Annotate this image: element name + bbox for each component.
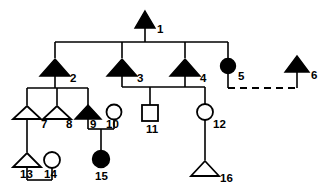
- individual-label-1: 1: [157, 23, 164, 35]
- individual-6[interactable]: 6: [285, 56, 317, 81]
- individual-label-4: 4: [200, 72, 207, 84]
- individual-10[interactable]: 10: [106, 105, 122, 131]
- triangle-symbol-filled[interactable]: [75, 105, 101, 119]
- individual-label-11: 11: [146, 123, 159, 135]
- individual-4[interactable]: 4: [170, 59, 207, 84]
- triangle-symbol-filled[interactable]: [285, 56, 309, 72]
- individual-14[interactable]: 14: [44, 152, 60, 180]
- triangle-symbol-open[interactable]: [191, 161, 219, 176]
- triangle-symbol-filled[interactable]: [170, 59, 200, 76]
- individual-2[interactable]: 2: [40, 59, 76, 84]
- connector-lines: [27, 28, 297, 180]
- individual-15[interactable]: 15: [93, 151, 110, 183]
- individual-13[interactable]: 13: [13, 153, 41, 180]
- individual-label-13: 13: [20, 168, 33, 180]
- individual-label-5: 5: [238, 70, 245, 82]
- individual-label-2: 2: [70, 72, 76, 84]
- individual-label-8: 8: [66, 118, 73, 130]
- triangle-symbol-open[interactable]: [13, 106, 41, 119]
- triangle-symbol-filled[interactable]: [40, 59, 70, 76]
- individual-label-12: 12: [213, 118, 226, 130]
- individual-label-10: 10: [106, 118, 119, 130]
- circle-symbol-open[interactable]: [44, 152, 60, 168]
- individual-3[interactable]: 3: [107, 59, 143, 84]
- individual-label-14: 14: [44, 168, 57, 180]
- circle-symbol-filled[interactable]: [221, 59, 236, 74]
- individual-11[interactable]: 11: [142, 105, 159, 135]
- individual-12[interactable]: 12: [197, 104, 226, 130]
- triangle-symbol-filled[interactable]: [107, 59, 137, 76]
- individual-7[interactable]: 7: [13, 106, 47, 130]
- individual-1[interactable]: 1: [135, 11, 164, 35]
- individual-label-6: 6: [311, 69, 317, 81]
- individual-8[interactable]: 8: [43, 106, 73, 130]
- individual-label-15: 15: [95, 170, 108, 182]
- pedigree-diagram: 1 2 3 4 5 6 7 8: [0, 0, 333, 196]
- individual-16[interactable]: 16: [191, 161, 233, 184]
- triangle-symbol-open[interactable]: [13, 153, 41, 167]
- individual-label-16: 16: [220, 172, 233, 184]
- pedigree-canvas: 1 2 3 4 5 6 7 8: [0, 0, 333, 196]
- circle-symbol-filled[interactable]: [93, 151, 110, 168]
- individual-label-3: 3: [137, 72, 143, 84]
- individual-5[interactable]: 5: [221, 59, 246, 83]
- circle-symbol-open[interactable]: [197, 104, 213, 120]
- triangle-symbol-filled[interactable]: [135, 11, 155, 28]
- individual-label-9: 9: [90, 118, 96, 130]
- square-symbol-open[interactable]: [142, 105, 158, 121]
